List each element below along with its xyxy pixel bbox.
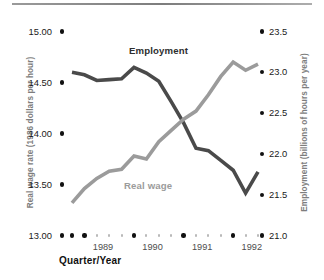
series-line-employment: [72, 67, 258, 193]
series-label-real-wage: Real wage: [124, 180, 172, 191]
x-axis-title: Quarter/Year: [59, 255, 121, 266]
chart-plot-area: [0, 0, 324, 280]
chart-figure: Real wage rate (1986 dollars per hour) E…: [0, 0, 324, 280]
series-label-employment: Employment: [129, 45, 188, 56]
